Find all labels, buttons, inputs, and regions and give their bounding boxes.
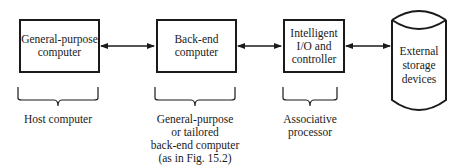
node-label-line: devices: [392, 72, 446, 86]
back-end-computer-box: Back-end computer: [156, 19, 237, 73]
brace-associative: [283, 87, 337, 106]
node-label-line: General-purpose: [21, 33, 98, 46]
general-purpose-computer-box: General-purpose computer: [19, 19, 100, 73]
node-label-line: Back-end: [174, 33, 218, 46]
host-computer-caption: Host computer: [8, 113, 108, 126]
node-label-line: I/O and: [290, 40, 337, 53]
caption-line: General-purpose: [140, 113, 250, 126]
caption-line: or tailored: [140, 126, 250, 139]
node-label-line: computer: [21, 46, 98, 59]
node-label-line: computer: [174, 46, 218, 59]
brace-host: [18, 87, 98, 106]
node-label-line: Intelligent: [290, 27, 337, 40]
node-label-line: controller: [290, 53, 337, 66]
caption-line: back-end computer: [140, 139, 250, 152]
backend-computer-caption: General-purpose or tailored back-end com…: [140, 113, 250, 165]
brace-backend: [155, 87, 235, 106]
caption-line: Associative: [270, 113, 350, 126]
intelligent-io-controller-box: Intelligent I/O and controller: [283, 19, 345, 73]
associative-processor-caption: Associative processor: [270, 113, 350, 139]
caption-line: processor: [270, 126, 350, 139]
node-label-line: External: [392, 44, 446, 58]
caption-line: (as in Fig. 15.2): [140, 152, 250, 165]
external-storage-devices-label: External storage devices: [392, 44, 446, 86]
node-label-line: storage: [392, 58, 446, 72]
caption-line: Host computer: [8, 113, 108, 126]
